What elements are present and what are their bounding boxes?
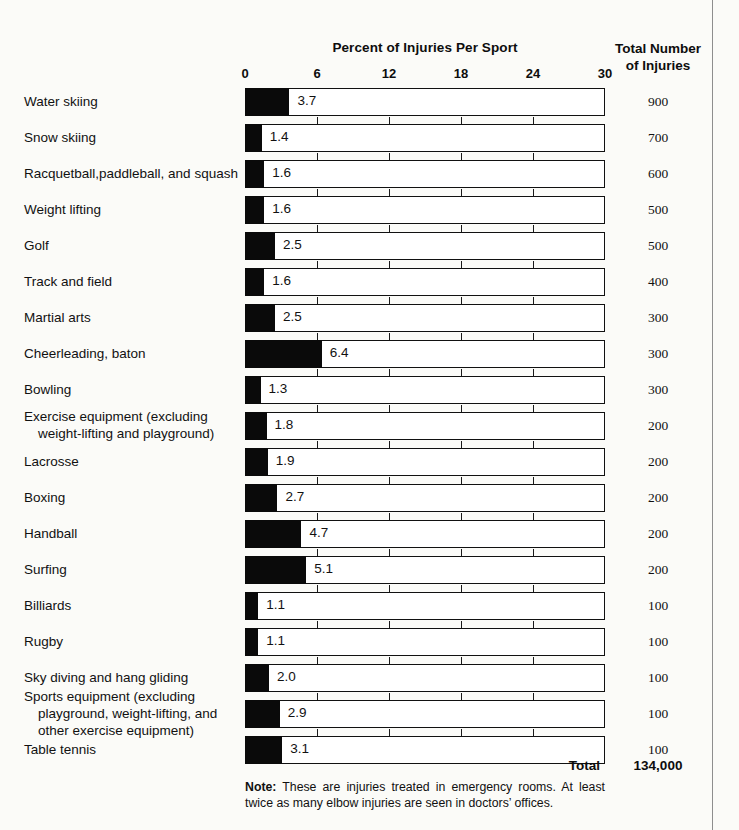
x-axis-tick-0: 0 — [241, 66, 248, 81]
bar-fill — [245, 664, 269, 692]
chart-note: Note: These are injuries treated in emer… — [245, 780, 605, 811]
category-label-line: Surfing — [24, 561, 240, 578]
gridline-tick — [389, 333, 390, 340]
bar-value-label: 6.4 — [330, 345, 349, 360]
category-label-line: Handball — [24, 525, 240, 542]
x-axis-tick-12: 12 — [382, 66, 396, 81]
gridline-tick — [461, 189, 462, 196]
category-label: Golf — [24, 237, 240, 254]
category-label: Cheerleading, baton — [24, 345, 240, 362]
bar-value-label: 1.9 — [276, 453, 295, 468]
chart-page: Percent of Injuries Per Sport Total Numb… — [0, 0, 739, 830]
bar-value-label: 1.1 — [266, 633, 285, 648]
category-label-line: Billiards — [24, 597, 240, 614]
bar-row: 1.8 — [245, 412, 605, 440]
bar-value-label: 2.0 — [277, 669, 296, 684]
bar-fill — [245, 196, 264, 224]
gridline-tick — [389, 693, 390, 700]
total-injuries-value: 500 — [608, 238, 708, 254]
bar-row: 1.6 — [245, 268, 605, 296]
gridline-tick — [317, 477, 318, 484]
totals-column-header: Total Number of Injuries — [608, 40, 708, 74]
bar-value-label: 1.4 — [270, 129, 289, 144]
category-label-line: weight-lifting and playground) — [24, 425, 240, 442]
gridline-tick — [461, 225, 462, 232]
bar-fill — [245, 340, 322, 368]
gridline-tick — [461, 729, 462, 736]
gridline-tick — [461, 549, 462, 556]
bar-fill — [245, 736, 282, 764]
category-label: Billiards — [24, 597, 240, 614]
total-injuries-value: 100 — [608, 706, 708, 722]
category-label: Table tennis — [24, 741, 240, 758]
category-label-column: Water skiingSnow skiingRacquetball,paddl… — [0, 88, 240, 748]
gridline-tick — [389, 621, 390, 628]
category-label: Rugby — [24, 633, 240, 650]
total-injuries-value: 900 — [608, 94, 708, 110]
grand-total-value: 134,000 — [608, 758, 708, 773]
gridline-tick — [317, 153, 318, 160]
gridline-tick — [389, 729, 390, 736]
category-label: Exercise equipment (excludingweight-lift… — [24, 408, 240, 442]
bar-plot-area: 3.71.41.61.62.51.62.56.41.31.81.92.74.75… — [245, 88, 605, 748]
bar-track — [245, 124, 605, 152]
gridline-tick — [317, 729, 318, 736]
total-injuries-value: 700 — [608, 130, 708, 146]
bar-row: 1.6 — [245, 196, 605, 224]
gridline-tick — [533, 621, 534, 628]
bar-fill — [245, 232, 275, 260]
total-injuries-value: 200 — [608, 490, 708, 506]
gridline-tick — [317, 225, 318, 232]
category-label: Surfing — [24, 561, 240, 578]
gridline-tick — [461, 153, 462, 160]
bar-value-label: 1.8 — [275, 417, 294, 432]
gridline-tick — [317, 369, 318, 376]
bar-row: 2.5 — [245, 304, 605, 332]
category-label-line: Sports equipment (excluding — [24, 688, 240, 705]
bar-fill — [245, 628, 258, 656]
total-injuries-value: 300 — [608, 310, 708, 326]
gridline-tick — [461, 333, 462, 340]
gridline-tick — [533, 549, 534, 556]
gridline-tick — [533, 729, 534, 736]
chart-note-prefix: Note: — [245, 780, 276, 794]
bar-fill — [245, 412, 267, 440]
gridline-tick — [389, 657, 390, 664]
bar-track — [245, 196, 605, 224]
gridline-tick — [389, 117, 390, 124]
category-label-line: Racquetball,paddleball, and squash — [24, 165, 240, 182]
bar-row: 1.9 — [245, 448, 605, 476]
bar-value-label: 5.1 — [314, 561, 333, 576]
gridline-tick — [317, 261, 318, 268]
gridline-tick — [533, 225, 534, 232]
gridline-tick — [461, 117, 462, 124]
gridline-tick — [461, 693, 462, 700]
gridline-tick — [317, 333, 318, 340]
gridline-tick — [533, 657, 534, 664]
bar-fill — [245, 304, 275, 332]
gridline-tick — [533, 441, 534, 448]
bar-fill — [245, 160, 264, 188]
totals-column-header-line1: Total Number — [608, 40, 708, 57]
gridline-tick — [389, 549, 390, 556]
category-label-line: Water skiing — [24, 93, 240, 110]
gridline-tick — [389, 477, 390, 484]
category-label-line: Martial arts — [24, 309, 240, 326]
category-label-line: Boxing — [24, 489, 240, 506]
chart-title: Percent of Injuries Per Sport — [245, 40, 605, 55]
chart-note-text: These are injuries treated in emergency … — [245, 780, 605, 810]
bar-track — [245, 448, 605, 476]
bar-fill — [245, 124, 262, 152]
bar-row: 1.3 — [245, 376, 605, 404]
bar-row: 2.5 — [245, 232, 605, 260]
bar-row: 4.7 — [245, 520, 605, 548]
bar-row: 2.9 — [245, 700, 605, 728]
gridline-tick — [317, 657, 318, 664]
gridline-tick — [317, 117, 318, 124]
bar-track — [245, 268, 605, 296]
gridline-tick — [533, 153, 534, 160]
gridline-tick — [461, 621, 462, 628]
category-label-line: Cheerleading, baton — [24, 345, 240, 362]
category-label: Water skiing — [24, 93, 240, 110]
gridline-tick — [461, 261, 462, 268]
